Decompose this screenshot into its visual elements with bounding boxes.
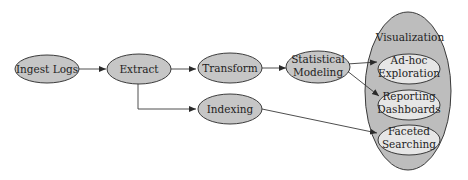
- adhoc-label-line1: Ad-hoc: [390, 54, 428, 66]
- transform-label: Transform: [202, 62, 258, 74]
- node-ingest-logs: Ingest Logs: [15, 55, 79, 83]
- adhoc-label-line2: Exploration: [378, 67, 440, 79]
- node-indexing: Indexing: [198, 94, 262, 124]
- visualization-group: Visualization Ad-hoc Exploration Reporti…: [365, 12, 451, 170]
- pipeline-diagram: Visualization Ad-hoc Exploration Reporti…: [0, 0, 468, 180]
- ingest-logs-label: Ingest Logs: [16, 63, 78, 75]
- modeling-label-line1: Statistical: [291, 53, 345, 65]
- extract-label: Extract: [119, 63, 159, 75]
- faceted-label-line2: Searching: [382, 138, 436, 150]
- node-statistical-modeling: Statistical Modeling: [286, 51, 350, 83]
- faceted-label-line1: Faceted: [388, 125, 430, 137]
- edge-indexing-faceted: [262, 109, 377, 133]
- node-adhoc-exploration: Ad-hoc Exploration: [378, 54, 440, 84]
- indexing-label: Indexing: [207, 103, 254, 115]
- reporting-label-line2: Dashboards: [377, 103, 440, 115]
- node-transform: Transform: [198, 53, 262, 83]
- modeling-label-line2: Modeling: [293, 66, 343, 78]
- visualization-label: Visualization: [375, 31, 445, 43]
- node-extract: Extract: [107, 54, 171, 84]
- reporting-label-line1: Reporting: [382, 90, 436, 102]
- node-faceted-searching: Faceted Searching: [378, 125, 440, 155]
- edge-extract-indexing: [138, 83, 196, 109]
- node-reporting-dashboards: Reporting Dashboards: [377, 90, 440, 120]
